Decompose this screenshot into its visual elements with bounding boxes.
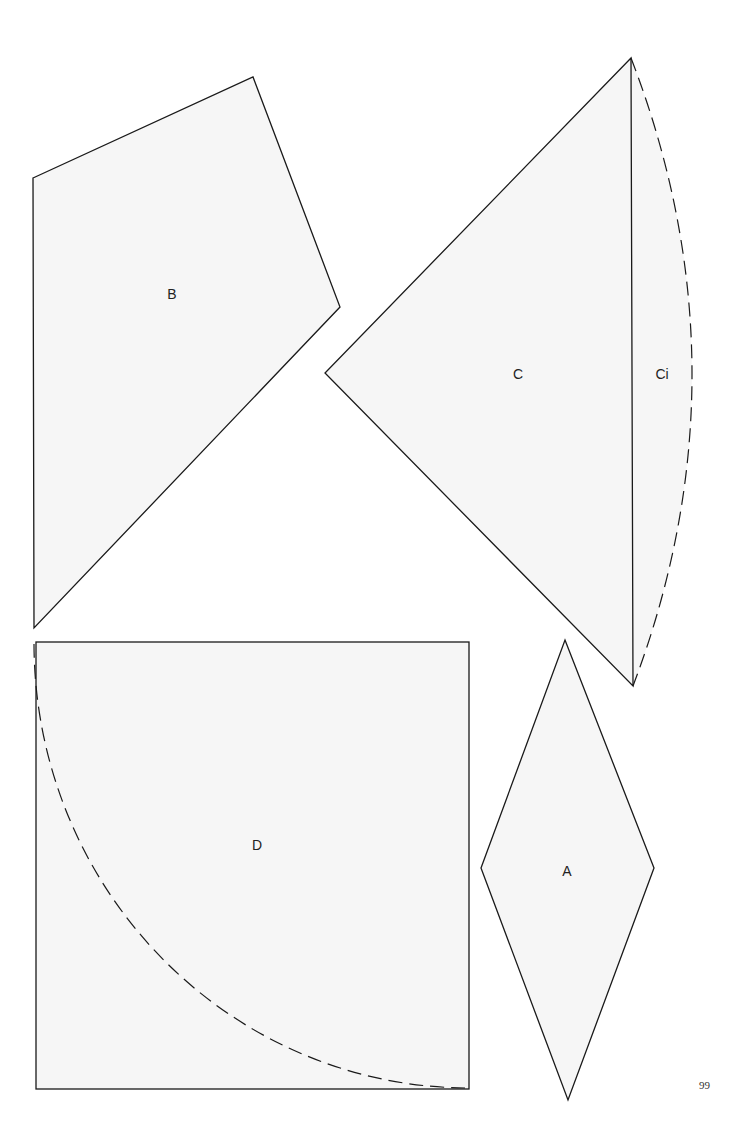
piece-c: C Ci — [325, 58, 692, 686]
piece-a: A — [481, 640, 654, 1100]
piece-b-label: B — [167, 286, 176, 302]
piece-d-label: D — [252, 837, 262, 853]
piece-a-label: A — [562, 863, 572, 879]
page-number: 99 — [699, 1079, 711, 1091]
piece-d: D — [34, 642, 469, 1089]
piece-b: B — [33, 77, 340, 628]
template-sheet: B C Ci D A 99 — [0, 0, 739, 1122]
piece-c-label: C — [513, 366, 523, 382]
piece-ci-label: Ci — [655, 366, 668, 382]
